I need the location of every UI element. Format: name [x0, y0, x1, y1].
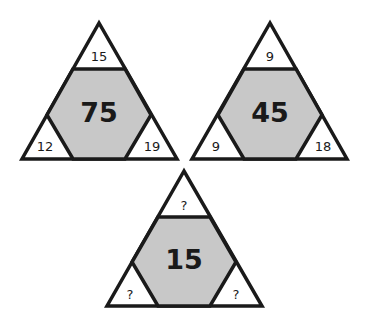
number-triangle-puzzle: 15 12 19 75 9 9 18 45 ? ? ? 15: [0, 0, 368, 331]
triangle-3-center-value: 15: [165, 244, 203, 275]
triangle-2-right-value: 18: [315, 139, 332, 154]
triangle-1-right-value: 19: [144, 139, 161, 154]
triangle-3-right-value: ?: [233, 287, 240, 302]
triangle-3-top-value: ?: [181, 198, 188, 213]
triangle-2-left-value: 9: [212, 139, 220, 154]
triangle-3-left-value: ?: [127, 287, 134, 302]
triangle-1-top-value: 15: [91, 49, 108, 64]
triangle-1-center-value: 75: [80, 97, 118, 128]
triangle-1: 15 12 19 75: [22, 23, 177, 159]
triangle-2: 9 9 18 45: [192, 23, 347, 159]
triangle-1-left-value: 12: [37, 139, 54, 154]
triangle-3: ? ? ? 15: [107, 171, 262, 306]
triangle-2-top-value: 9: [266, 49, 274, 64]
triangle-2-center-value: 45: [251, 97, 289, 128]
